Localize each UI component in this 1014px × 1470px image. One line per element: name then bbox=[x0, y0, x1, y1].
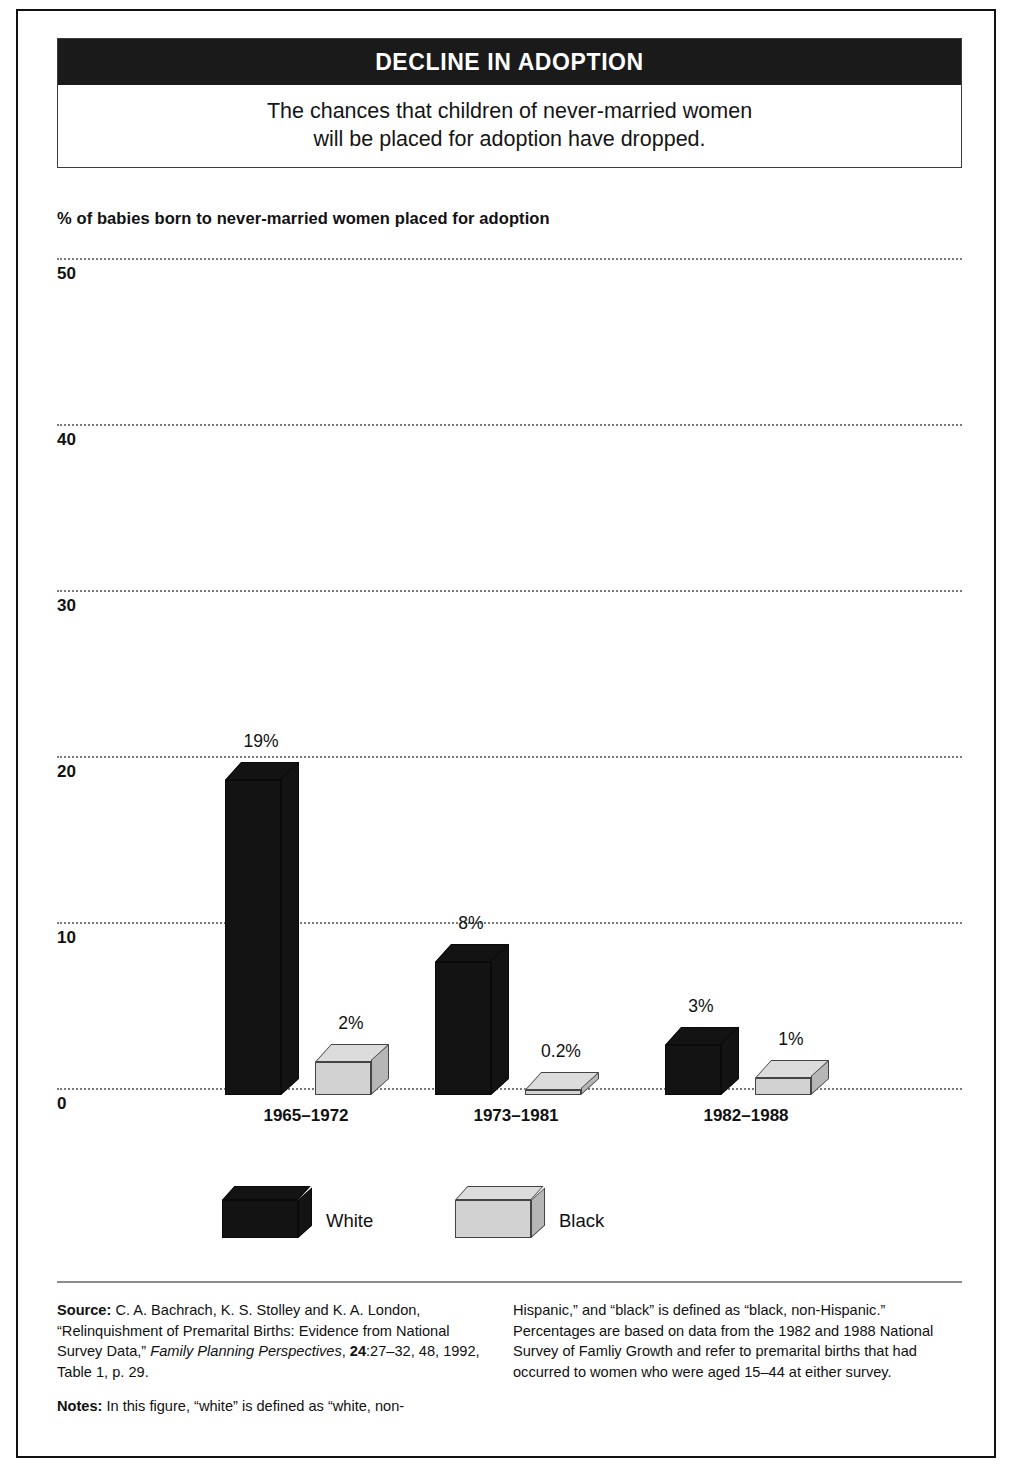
legend-swatch-black-icon bbox=[455, 1186, 533, 1230]
bar-white-2-front-face bbox=[435, 962, 491, 1095]
y-tick-label-20: 20 bbox=[57, 762, 76, 782]
notes-text-right: Hispanic,” and “black” is defined as “bl… bbox=[513, 1300, 963, 1383]
bar-white-1 bbox=[225, 764, 281, 1095]
notes-right-column: Hispanic,” and “black” is defined as “bl… bbox=[513, 1300, 963, 1396]
legend-swatch-top bbox=[455, 1186, 544, 1200]
subtitle-line-2: will be placed for adoption have dropped… bbox=[313, 126, 705, 154]
legend-item-black: Black bbox=[455, 1186, 655, 1246]
bar-value-black-1: 2% bbox=[303, 1013, 399, 1034]
source-label: Source: bbox=[57, 1302, 111, 1318]
bar-black-1-front-face bbox=[315, 1062, 371, 1095]
bar-white-2-side-face bbox=[491, 944, 509, 1095]
header-box: DECLINE IN ADOPTION The chances that chi… bbox=[57, 38, 962, 168]
notes-label: Notes: bbox=[57, 1398, 102, 1414]
legend-swatch-front bbox=[455, 1200, 531, 1238]
bar-value-black-2: 0.2% bbox=[513, 1041, 609, 1062]
y-tick-label-40: 40 bbox=[57, 430, 76, 450]
category-label-3: 1982–1988 bbox=[625, 1106, 867, 1126]
notes-divider bbox=[57, 1281, 962, 1283]
source-text-2: , bbox=[342, 1343, 350, 1359]
header-subtitle: The chances that children of never-marri… bbox=[58, 85, 961, 167]
legend-swatch-top bbox=[222, 1186, 311, 1200]
y-axis-caption: % of babies born to never-married women … bbox=[57, 209, 550, 228]
legend-label-black: Black bbox=[559, 1210, 604, 1232]
y-tick-label-10: 10 bbox=[57, 928, 76, 948]
source-journal: Family Planning Perspectives bbox=[150, 1343, 341, 1359]
figure-title: DECLINE IN ADOPTION bbox=[375, 49, 644, 76]
bar-white-3-front-face bbox=[665, 1045, 721, 1095]
bar-white-3 bbox=[665, 1029, 721, 1095]
bar-black-2 bbox=[525, 1074, 581, 1095]
figure-page: DECLINE IN ADOPTION The chances that chi… bbox=[0, 0, 1014, 1470]
y-tick-label-0: 0 bbox=[57, 1094, 66, 1114]
gridline-30 bbox=[57, 590, 962, 592]
chart-plot-area: 0102030405019%2%1965–19728%0.2%1973–1981… bbox=[57, 250, 962, 1095]
notes-paragraph-left: Notes: In this figure, “white” is define… bbox=[57, 1396, 497, 1417]
bar-value-black-3: 1% bbox=[743, 1029, 839, 1050]
bar-white-1-side-face bbox=[281, 761, 299, 1095]
bar-value-white-2: 8% bbox=[423, 913, 519, 934]
bar-value-white-1: 19% bbox=[213, 731, 309, 752]
legend-item-white: White bbox=[222, 1186, 422, 1246]
legend-swatch-white-icon bbox=[222, 1186, 300, 1230]
category-label-2: 1973–1981 bbox=[395, 1106, 637, 1126]
y-tick-label-50: 50 bbox=[57, 264, 76, 284]
bar-white-1-front-face bbox=[225, 780, 281, 1095]
gridline-0 bbox=[57, 1088, 962, 1090]
notes-text-left: In this figure, “white” is defined as “w… bbox=[102, 1398, 404, 1414]
bar-white-2 bbox=[435, 946, 491, 1095]
y-tick-label-30: 30 bbox=[57, 596, 76, 616]
bar-black-3-front-face bbox=[755, 1078, 811, 1095]
bar-value-white-3: 3% bbox=[653, 996, 749, 1017]
source-volume: 24 bbox=[350, 1343, 366, 1359]
gridline-20 bbox=[57, 756, 962, 758]
bar-black-2-front-face bbox=[525, 1090, 581, 1095]
gridline-40 bbox=[57, 424, 962, 426]
header-title-bar: DECLINE IN ADOPTION bbox=[58, 39, 961, 85]
category-label-1: 1965–1972 bbox=[185, 1106, 427, 1126]
legend-swatch-front bbox=[222, 1200, 298, 1238]
gridline-50 bbox=[57, 258, 962, 260]
subtitle-line-1: The chances that children of never-marri… bbox=[267, 98, 752, 126]
bar-black-1 bbox=[315, 1046, 371, 1095]
notes-left-column: Source: C. A. Bachrach, K. S. Stolley an… bbox=[57, 1300, 497, 1430]
bar-black-3 bbox=[755, 1062, 811, 1095]
source-paragraph: Source: C. A. Bachrach, K. S. Stolley an… bbox=[57, 1300, 497, 1383]
legend-label-white: White bbox=[326, 1210, 373, 1232]
